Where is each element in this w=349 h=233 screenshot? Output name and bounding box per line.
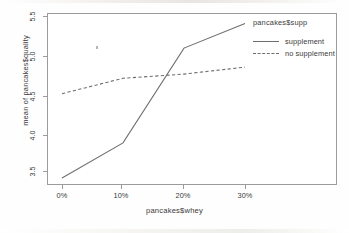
legend-label-no-supplement: no supplement — [285, 49, 335, 58]
x-tick-mark-10 — [121, 185, 122, 189]
scan-speck-artifact — [96, 46, 98, 49]
legend-line-dashed-icon — [253, 50, 279, 56]
y-tick-label-5-5: 5.5 — [29, 6, 36, 28]
scan-artifact-top — [0, 0, 349, 3]
legend-title: pancakes$supp — [253, 18, 335, 27]
interaction-plot-figure: mean of pancakes$quality 5.5 5.0 4.5 4.0… — [0, 0, 349, 233]
scan-artifact-bottom — [0, 229, 349, 233]
legend-line-solid-icon — [253, 38, 279, 44]
y-tick-label-3-5: 3.5 — [29, 161, 36, 183]
legend-item-no-supplement: no supplement — [253, 48, 335, 58]
y-tick-label-4-5: 4.5 — [29, 86, 36, 108]
legend-item-supplement: supplement — [253, 36, 335, 46]
y-tick-label-4-0: 4.0 — [29, 125, 36, 147]
x-axis-title: pancakes$whey — [0, 206, 349, 215]
legend-label-supplement: supplement — [285, 37, 324, 46]
x-tick-mark-0 — [62, 185, 63, 189]
x-tick-mark-20 — [183, 185, 184, 189]
legend: pancakes$supp supplement no supplement — [253, 18, 335, 58]
y-tick-label-5-0: 5.0 — [29, 46, 36, 68]
series-supplement-line — [62, 24, 245, 179]
x-tick-label-20: 20% — [168, 191, 198, 200]
x-tick-label-0: 0% — [47, 191, 77, 200]
legend-items: supplement no supplement — [253, 36, 335, 58]
x-tick-label-30: 30% — [230, 191, 260, 200]
x-tick-label-10: 10% — [106, 191, 136, 200]
series-no-supplement-line — [62, 67, 245, 94]
x-tick-mark-30 — [245, 185, 246, 189]
